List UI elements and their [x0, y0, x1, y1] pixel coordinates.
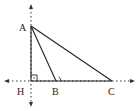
right-angle-mark-H [31, 75, 37, 81]
point-label-B: B [52, 87, 59, 97]
point-label-A: A [19, 23, 26, 33]
angle-arc-B [59, 77, 61, 81]
point-label-C: C [108, 87, 115, 97]
arrow-left-icon [4, 79, 9, 83]
arrow-right-icon [130, 79, 135, 83]
point-label-H: H [17, 87, 24, 97]
arrow-down-icon [29, 102, 33, 107]
triangle-diagram: A H B C [0, 0, 139, 111]
arrow-up-icon [29, 4, 33, 9]
